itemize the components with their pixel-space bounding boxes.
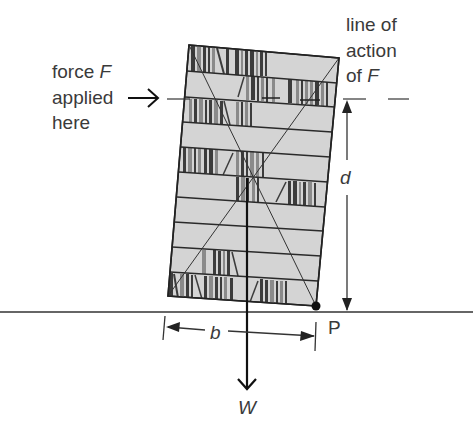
force-label: force F — [52, 61, 113, 82]
dimension-d — [342, 100, 352, 311]
bookcase-toppling-diagram: force F applied here line of action of F… — [0, 0, 473, 444]
pivot-point — [312, 302, 321, 311]
arrowhead-right-icon — [300, 331, 315, 341]
bookcase — [168, 45, 339, 306]
arrowhead-down-icon — [342, 298, 352, 311]
distance-b-label: b — [210, 322, 221, 343]
here-label: here — [52, 112, 90, 133]
of-f-label: of F — [346, 65, 380, 86]
arrowhead-up-icon — [342, 100, 352, 113]
arrowhead-left-icon — [166, 322, 180, 332]
pivot-label: P — [328, 317, 341, 338]
applied-label: applied — [52, 87, 113, 108]
distance-d-label: d — [340, 167, 352, 188]
weight-label: W — [238, 397, 258, 418]
action-label: action — [346, 40, 397, 61]
line-of-label: line of — [346, 14, 397, 35]
dimension-b — [163, 316, 316, 351]
